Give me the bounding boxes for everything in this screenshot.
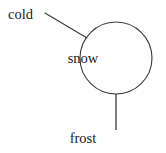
node-label-snow: snow <box>0 51 166 66</box>
concept-diagram-canvas: cold snow frost <box>0 0 166 153</box>
edge-cold-to-snow <box>45 13 87 38</box>
node-label-frost: frost <box>0 131 166 146</box>
node-label-cold: cold <box>8 7 33 22</box>
